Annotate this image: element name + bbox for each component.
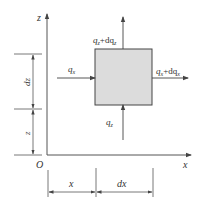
flux-left-label: qx	[68, 64, 76, 75]
diagram-canvas: z x O qz+dqz qx qx+dqx qz dz z	[0, 0, 201, 204]
dim-label-dz: dz	[22, 78, 32, 87]
origin-label: O	[36, 159, 43, 170]
vertical-dimensions: dz z	[14, 54, 42, 155]
control-volume-element	[95, 49, 152, 105]
dim-label-dx: dx	[117, 178, 127, 189]
dim-label-x: x	[68, 178, 74, 189]
flux-right-label: qx+dqx	[156, 66, 180, 77]
flux-bottom-label: qz	[106, 117, 114, 128]
flux-top-label: qz+dqz	[93, 35, 117, 46]
dim-label-z: z	[22, 131, 32, 136]
flux-diagram: z x O qz+dqz qx qx+dqx qz dz z	[0, 0, 201, 204]
horizontal-dimensions: x dx	[48, 168, 153, 197]
x-axis-label: x	[182, 159, 188, 170]
z-axis-label: z	[36, 12, 41, 23]
